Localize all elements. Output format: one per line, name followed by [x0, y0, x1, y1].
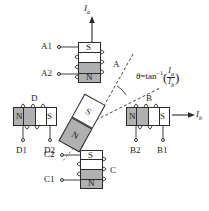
coil-label-D: D [31, 94, 38, 103]
figure-canvas: Ia Ib A θ=tan−1(IaIb) S N [0, 0, 209, 211]
coil-D-terminal-D2[interactable] [48, 138, 52, 142]
coil-D-terminal-D1-label: D1 [16, 146, 27, 155]
rotor-south-label: S [84, 106, 93, 117]
coil-D-terminal-D2-label: D2 [44, 146, 55, 155]
coil-D-terminal-D1[interactable] [21, 138, 25, 142]
rotor-north-label: N [70, 129, 81, 141]
